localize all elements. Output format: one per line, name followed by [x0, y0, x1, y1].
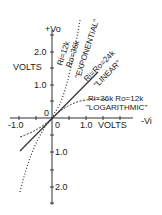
x-tick-label-1: 1.0 — [80, 120, 93, 130]
x-axis-right-label: -Vi — [141, 116, 152, 126]
y-axis-top-label: +Vo — [45, 24, 61, 34]
y-tick-label-1-lower: 1.0 — [55, 147, 68, 157]
origin-label-below: 0 — [55, 120, 60, 130]
logarithmic-params: Ri=36k Ro=12k — [88, 94, 144, 103]
y-axis-units: VOLTS — [13, 62, 42, 72]
x-axis-units: VOLTS — [98, 120, 127, 130]
y-tick-label-1-upper: 1.0 — [34, 80, 47, 90]
x-tick-label-neg1: -1.0 — [8, 120, 24, 130]
y-tick-label-2-upper: 2.0 — [34, 47, 47, 57]
transfer-curve-diagram: +Vo VOLTS 2.0 1.0 1.0 2.0 0 0 -1.0 1.0 V… — [0, 0, 162, 215]
origin-label-left: 0 — [44, 108, 49, 118]
logarithmic-label: "LOGARITHMIC" — [86, 103, 147, 112]
y-tick-label-2-lower: 2.0 — [55, 182, 68, 192]
